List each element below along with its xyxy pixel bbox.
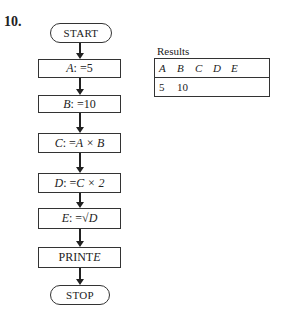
- step-var: B: [63, 97, 70, 112]
- process-box-c: C: = A × B: [38, 133, 121, 153]
- stop-terminal: STOP: [50, 285, 110, 305]
- connector-line: [79, 229, 81, 241]
- connector-line: [79, 193, 81, 202]
- print-box: PRINT E: [38, 247, 121, 268]
- connector-line: [79, 153, 81, 167]
- step-expr: 10: [84, 97, 96, 112]
- step-op: : =: [63, 136, 76, 151]
- start-terminal: START: [50, 23, 112, 43]
- value-b: 10: [177, 81, 195, 93]
- header-e: E: [231, 62, 249, 74]
- results-header-row: ABCDE: [155, 59, 270, 78]
- connector-line: [79, 78, 81, 89]
- connector-line: [79, 268, 81, 279]
- connector-line: [79, 43, 81, 53]
- results-label: Results: [157, 45, 189, 57]
- step-var: C: [55, 136, 63, 151]
- process-box-e: E: = √D: [38, 208, 121, 229]
- step-var: E: [62, 211, 69, 226]
- results-value-cells: 510: [155, 78, 270, 97]
- print-keyword: PRINT: [58, 250, 93, 265]
- results-table: ABCDE 510: [154, 58, 270, 97]
- header-a: A: [159, 62, 177, 74]
- connector-line: [79, 113, 81, 127]
- print-var: E: [93, 250, 100, 265]
- header-d: D: [213, 62, 231, 74]
- step-expr: √D: [82, 211, 97, 226]
- header-c: C: [195, 62, 213, 74]
- process-box-b: B: = 10: [38, 95, 121, 113]
- step-op: : =: [69, 211, 82, 226]
- process-box-d: D: = C × 2: [38, 173, 121, 193]
- value-a: 5: [159, 81, 177, 93]
- results-value-row: 510: [155, 78, 270, 97]
- process-box-a: A: = 5: [38, 59, 121, 78]
- step-op: : =: [74, 61, 87, 76]
- step-var: A: [66, 61, 73, 76]
- step-expr: C × 2: [76, 176, 104, 191]
- problem-number: 10.: [4, 14, 22, 30]
- step-expr: A × B: [76, 136, 105, 151]
- step-expr: 5: [87, 61, 93, 76]
- header-b: B: [177, 62, 195, 74]
- step-op: : =: [71, 97, 84, 112]
- results-header-cells: ABCDE: [155, 59, 270, 78]
- step-var: D: [55, 176, 64, 191]
- step-op: : =: [63, 176, 76, 191]
